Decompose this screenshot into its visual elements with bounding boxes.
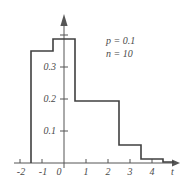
parameter-annotation-n: n = 10 (106, 47, 133, 61)
binomial-pmf-figure: 0.3 0.2 0.1 -2 -1 0 1 2 3 4 t p = 0.1 n … (0, 0, 186, 186)
parameter-annotation-p: p = 0.1 (106, 34, 135, 48)
y-tick-label-0-1: 0.1 (36, 126, 56, 136)
plot-canvas (0, 0, 186, 186)
y-tick-label-0-3: 0.3 (36, 62, 56, 72)
x-tick-label-minus1: -1 (36, 167, 50, 177)
y-axis (60, 14, 67, 168)
x-tick-label-3: 3 (125, 167, 135, 177)
x-tick-label-4: 4 (147, 167, 157, 177)
x-axis-ticks (20, 159, 152, 163)
x-tick-label-0: 0 (54, 167, 64, 177)
x-tick-label-minus2: -2 (14, 167, 28, 177)
y-tick-label-0-2: 0.2 (36, 94, 56, 104)
x-tick-label-2: 2 (103, 167, 113, 177)
x-axis-name: t (171, 167, 174, 177)
x-tick-label-1: 1 (81, 167, 91, 177)
